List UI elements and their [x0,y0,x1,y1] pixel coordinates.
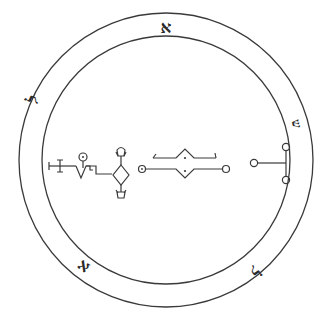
letter-right: ש [289,118,305,130]
ring-letters: א ש ל א ל [21,17,304,282]
sigil-left [49,148,129,199]
seal-diagram: א ש ל א ל [0,0,332,321]
outer-ring [19,13,313,307]
sigil-right [250,143,289,183]
sigil-center [139,149,230,178]
letter-left: ל [21,91,43,108]
letter-top: א [161,17,172,37]
letter-bottom-left: א [73,256,93,279]
